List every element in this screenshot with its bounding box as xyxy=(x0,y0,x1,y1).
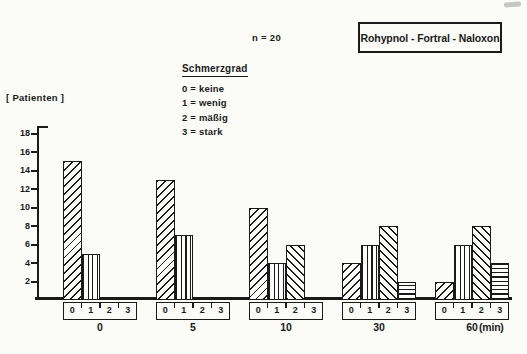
time-label: 30 xyxy=(342,321,416,333)
bar-10min-grade2 xyxy=(286,245,305,301)
grade-tick-label: 2 xyxy=(193,302,212,320)
y-axis-tick xyxy=(31,262,38,264)
y-axis-tick xyxy=(31,207,38,209)
bar-60min-grade2 xyxy=(472,226,491,300)
grade-separator-tick xyxy=(453,302,454,308)
grade-tick-label: 1 xyxy=(361,302,380,320)
bar-30min-grade3 xyxy=(398,282,417,301)
grade-separator-tick xyxy=(118,302,119,308)
y-axis-tick-label: 2 xyxy=(8,276,30,287)
y-axis-tick xyxy=(31,225,38,227)
bar-60min-grade3 xyxy=(491,263,510,300)
time-label: 10 xyxy=(249,321,323,333)
y-axis-tick-label: 16 xyxy=(8,147,30,158)
y-axis-tick xyxy=(31,188,38,190)
grade-tick-label: 3 xyxy=(491,302,510,320)
y-axis-tick-label: 6 xyxy=(8,239,30,250)
y-axis-tick xyxy=(31,133,38,135)
grade-tick-label: 0 xyxy=(249,302,268,320)
grade-tick-label: 0 xyxy=(156,302,175,320)
grade-tick-label: 2 xyxy=(472,302,491,320)
grade-tick-label: 3 xyxy=(398,302,417,320)
grade-separator-tick xyxy=(490,302,491,308)
grade-tick-label: 2 xyxy=(379,302,398,320)
grade-tick-label: 3 xyxy=(305,302,324,320)
grade-separator-tick xyxy=(378,302,379,308)
time-label: 0 xyxy=(63,321,137,333)
grade-separator-tick xyxy=(174,302,175,308)
bar-0min-grade0 xyxy=(63,161,82,300)
bar-30min-grade0 xyxy=(342,263,361,300)
grade-separator-tick xyxy=(211,302,212,308)
y-axis-tick xyxy=(31,244,38,246)
grade-tick-label: 0 xyxy=(63,302,82,320)
grade-tick-label: 2 xyxy=(100,302,119,320)
grade-separator-tick xyxy=(99,302,100,308)
figure: n = 20 Rohypnol - Fortral - Naloxon Schm… xyxy=(0,0,527,354)
x-axis-unit-label: (min) xyxy=(479,321,504,333)
y-axis-tick xyxy=(31,281,38,283)
grade-separator-tick xyxy=(192,302,193,308)
grade-separator-tick xyxy=(360,302,361,308)
bar-10min-grade1 xyxy=(268,263,287,300)
grade-tick-label: 3 xyxy=(212,302,231,320)
grade-separator-tick xyxy=(81,302,82,308)
y-axis-tick xyxy=(31,151,38,153)
bar-30min-grade2 xyxy=(379,226,398,300)
bar-5min-grade1 xyxy=(175,235,194,300)
grade-separator-tick xyxy=(471,302,472,308)
y-axis-tick-label: 18 xyxy=(8,128,30,139)
grade-tick-label: 1 xyxy=(268,302,287,320)
grade-tick-label: 2 xyxy=(286,302,305,320)
bar-60min-grade1 xyxy=(454,245,473,301)
y-axis-tick-label: 8 xyxy=(8,221,30,232)
bar-5min-grade0 xyxy=(156,180,175,300)
grade-tick-label: 0 xyxy=(342,302,361,320)
time-label: 5 xyxy=(156,321,230,333)
grade-tick-label: 1 xyxy=(454,302,473,320)
bar-0min-grade1 xyxy=(82,254,101,300)
y-axis-tick xyxy=(31,170,38,172)
grade-tick-label: 1 xyxy=(82,302,101,320)
bar-chart: 2468101214161801230012350123100123300123… xyxy=(0,0,527,354)
grade-separator-tick xyxy=(304,302,305,308)
y-axis-tick-label: 10 xyxy=(8,202,30,213)
bar-60min-grade0 xyxy=(435,282,454,301)
grade-tick-label: 1 xyxy=(175,302,194,320)
bar-30min-grade1 xyxy=(361,245,380,301)
grade-separator-tick xyxy=(285,302,286,308)
y-axis-top-hook xyxy=(37,126,48,128)
y-axis-tick-label: 4 xyxy=(8,258,30,269)
y-axis-tick-label: 12 xyxy=(8,184,30,195)
grade-tick-label: 0 xyxy=(435,302,454,320)
grade-separator-tick xyxy=(267,302,268,308)
bar-10min-grade0 xyxy=(249,208,268,301)
y-axis-tick-label: 14 xyxy=(8,165,30,176)
grade-tick-label: 3 xyxy=(119,302,138,320)
grade-separator-tick xyxy=(397,302,398,308)
